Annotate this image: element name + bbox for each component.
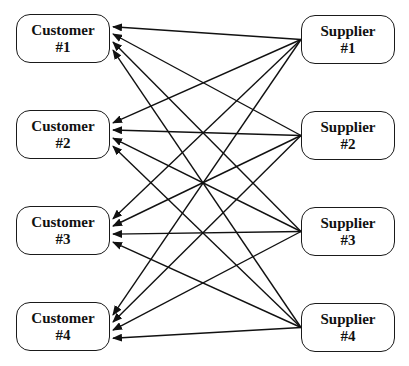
edge-s2-to-c1 [113,34,301,136]
edge-s4-to-c1 [113,50,301,327]
customer-2-number: #2 [56,135,71,152]
customer-1-number: #1 [56,39,71,56]
supplier-1-number: #1 [341,40,356,57]
customer-2-label: Customer [31,118,94,135]
edge-s3-to-c3 [113,232,301,235]
customer-2-node[interactable]: Customer #2 [16,110,110,159]
edge-s2-to-c3 [113,136,301,227]
edge-s4-to-c4 [113,328,301,339]
supplier-3-node[interactable]: Supplier #3 [301,207,395,256]
supplier-1-label: Supplier [320,23,375,40]
edge-s1-to-c1 [113,27,301,40]
supplier-2-number: #2 [341,136,356,153]
customer-4-number: #4 [56,327,71,344]
supplier-2-node[interactable]: Supplier #2 [301,111,395,160]
customer-1-node[interactable]: Customer #1 [16,14,110,63]
edge-s3-to-c1 [113,42,301,231]
customer-3-label: Customer [31,214,94,231]
supplier-4-label: Supplier [320,311,375,328]
customer-1-label: Customer [31,22,94,39]
customer-4-node[interactable]: Customer #4 [16,302,110,351]
edge-s2-to-c4 [113,136,301,323]
customer-3-number: #3 [56,231,71,248]
supplier-3-label: Supplier [320,215,375,232]
supplier-2-label: Supplier [320,119,375,136]
edge-s4-to-c2 [113,146,301,327]
customer-3-node[interactable]: Customer #3 [16,206,110,255]
edge-s1-to-c3 [113,40,301,219]
supplier-4-node[interactable]: Supplier #4 [301,303,395,352]
customer-4-label: Customer [31,310,94,327]
edge-s3-to-c2 [113,138,301,231]
edge-s2-to-c2 [113,130,301,136]
supplier-4-number: #4 [341,328,356,345]
supplier-1-node[interactable]: Supplier #1 [301,15,395,64]
supplier-3-number: #3 [341,232,356,249]
